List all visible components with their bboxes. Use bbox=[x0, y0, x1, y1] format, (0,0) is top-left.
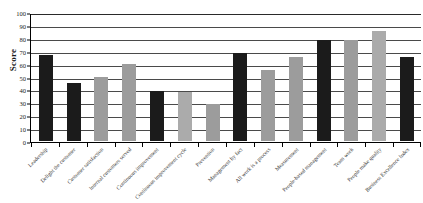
bar[interactable] bbox=[344, 40, 358, 141]
bar[interactable] bbox=[94, 77, 108, 142]
x-axis-tick-label: Team work bbox=[334, 147, 356, 169]
y-axis-tick-label: 80 bbox=[20, 37, 27, 44]
bar-slot bbox=[32, 14, 60, 141]
y-axis-tick-label: 30 bbox=[20, 101, 27, 108]
bar[interactable] bbox=[372, 31, 386, 141]
bar-slot bbox=[254, 14, 282, 141]
bar-slot bbox=[393, 14, 421, 141]
bar-slot bbox=[60, 14, 88, 141]
y-axis-tick-label: 10 bbox=[20, 127, 27, 134]
bar-slot bbox=[365, 14, 393, 141]
bar-series bbox=[32, 14, 421, 141]
bar-slot bbox=[226, 14, 254, 141]
bar[interactable] bbox=[122, 64, 136, 141]
bar[interactable] bbox=[400, 57, 414, 141]
bar[interactable] bbox=[67, 83, 81, 141]
bar[interactable] bbox=[178, 92, 192, 141]
bar[interactable] bbox=[150, 91, 164, 141]
y-axis-tick-label: 90 bbox=[20, 24, 27, 31]
bar-chart-figure: Score 0102030405060708090100 LeadershipD… bbox=[0, 0, 423, 203]
y-axis-tick-label: 0 bbox=[23, 140, 26, 147]
x-axis-tick-label: Leadership bbox=[27, 147, 49, 169]
x-axis-tick-labels: LeadershipDelight the customerCustomer s… bbox=[31, 147, 421, 203]
y-axis-tick-label: 50 bbox=[20, 75, 27, 82]
bar-slot bbox=[88, 14, 116, 141]
plot-area bbox=[30, 14, 421, 143]
bar-slot bbox=[338, 14, 366, 141]
x-label-cell: Continuous improvement cycle bbox=[170, 147, 198, 203]
x-label-cell: All work is a process bbox=[254, 147, 282, 203]
y-axis-tick-label: 40 bbox=[20, 88, 27, 95]
bar-slot bbox=[171, 14, 199, 141]
bar[interactable] bbox=[233, 53, 247, 141]
x-axis-tick-label: Prevention bbox=[195, 147, 216, 168]
bar[interactable] bbox=[261, 70, 275, 141]
bar[interactable] bbox=[206, 104, 220, 141]
bar[interactable] bbox=[289, 57, 303, 141]
bar-slot bbox=[282, 14, 310, 141]
bar[interactable] bbox=[39, 55, 53, 141]
bar-slot bbox=[310, 14, 338, 141]
y-axis-tick-label: 70 bbox=[20, 49, 27, 56]
y-axis-tick-label: 60 bbox=[20, 62, 27, 69]
y-axis-tick-label: 20 bbox=[20, 114, 27, 121]
bar[interactable] bbox=[317, 40, 331, 141]
x-label-cell: Business Excellence Index bbox=[393, 147, 421, 203]
bar-slot bbox=[115, 14, 143, 141]
y-axis-tick-labels: 0102030405060708090100 bbox=[0, 14, 30, 143]
bar-slot bbox=[199, 14, 227, 141]
x-label-cell: People-based management bbox=[310, 147, 338, 203]
bar-slot bbox=[143, 14, 171, 141]
y-axis-tick-label: 100 bbox=[16, 11, 26, 18]
